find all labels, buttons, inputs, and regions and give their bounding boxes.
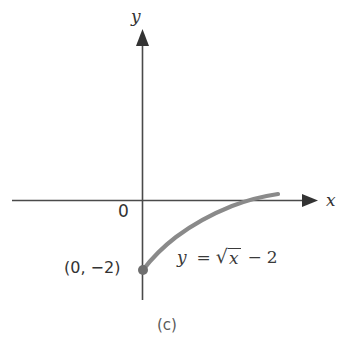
y-axis-label: y — [131, 8, 141, 25]
figure-caption: (c) — [157, 318, 177, 333]
equation-operator: − — [243, 249, 267, 266]
equation-lhs: y — [177, 249, 192, 266]
equation-label: y = √ x − 2 — [177, 247, 278, 267]
radical-sign-icon: √ — [216, 247, 228, 267]
figure-container: y x 0 (0, −2) y = √ x − 2 (c) — [0, 0, 346, 350]
origin-label: 0 — [118, 203, 129, 220]
point-coordinate-label: (0, −2) — [64, 260, 120, 276]
endpoint-dot — [138, 265, 148, 275]
equation-constant: 2 — [267, 249, 278, 266]
x-axis-arrowhead — [302, 194, 318, 207]
y-axis-arrowhead — [136, 29, 149, 46]
x-axis-label: x — [326, 192, 336, 209]
radicand: x — [228, 248, 241, 267]
graph-canvas — [0, 0, 346, 350]
radical-expression: √ x — [216, 247, 241, 267]
equation-equals: = — [192, 249, 216, 266]
